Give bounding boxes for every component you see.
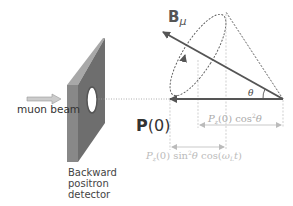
cos-text: cos(	[198, 150, 222, 161]
theta: θ	[256, 113, 262, 124]
polarization-label: P(0)	[136, 118, 170, 134]
detector-label-line: detector	[68, 189, 117, 200]
omega: ω	[222, 150, 230, 161]
sin-text: (0) sin	[156, 150, 188, 161]
close-paren: )	[238, 150, 242, 161]
muon-beam-label: muon beam	[17, 104, 80, 115]
cos-text: (0) cos	[218, 113, 252, 124]
field-symbol: B	[168, 8, 179, 26]
b-field-vector	[163, 32, 283, 99]
projection-guides	[170, 14, 283, 150]
detector-label-line: Backward	[68, 167, 117, 178]
detector-label: Backward positron detector	[68, 167, 117, 200]
muon-polarization-diagram: muon beam Backward positron detector P(0…	[0, 0, 293, 206]
field-subscript: μ	[179, 15, 186, 28]
detector-label-line: positron	[68, 178, 117, 189]
polarization-symbol: P	[136, 116, 148, 135]
polarization-arg: (0)	[148, 116, 171, 135]
p-symbol: P	[208, 113, 215, 124]
angle-arc	[263, 89, 265, 99]
oscillating-component-label: Pz(0) sin2θ cos(ωLt)	[146, 150, 242, 162]
detector-slab-icon	[67, 38, 105, 162]
b-field-label: Bμ	[168, 10, 186, 27]
p-symbol: P	[146, 150, 153, 161]
angle-label: θ	[248, 89, 253, 98]
longitudinal-component-label: Pz(0) cos2θ	[208, 113, 262, 125]
